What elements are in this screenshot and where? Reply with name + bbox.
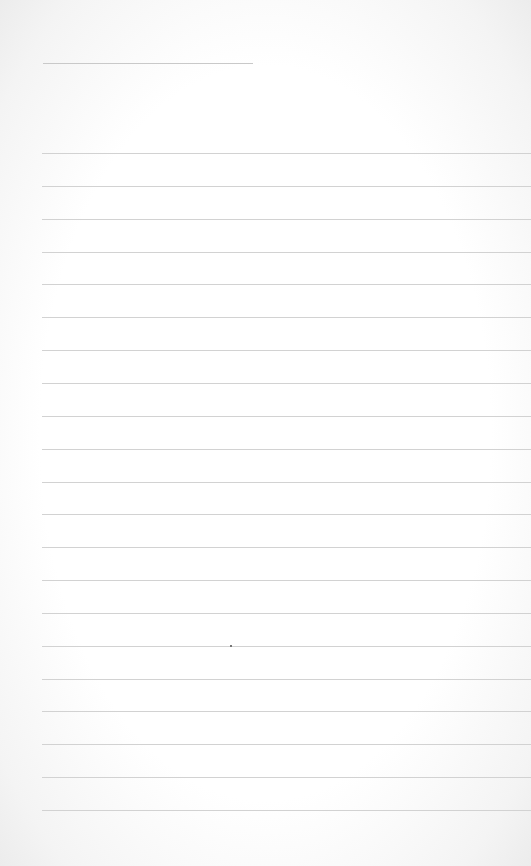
ruled-line — [42, 711, 531, 712]
ruled-line — [42, 153, 531, 154]
ruled-line — [42, 252, 531, 253]
ruled-line — [42, 350, 531, 351]
ruled-line — [42, 613, 531, 614]
ruled-line — [42, 449, 531, 450]
ruled-line — [42, 514, 531, 515]
ruled-line — [42, 482, 531, 483]
ruled-line — [42, 416, 531, 417]
ruled-line — [42, 777, 531, 778]
ruled-line — [42, 219, 531, 220]
lined-paper-page — [0, 0, 531, 866]
ruled-line — [42, 679, 531, 680]
ruled-line — [42, 744, 531, 745]
ruled-line — [42, 383, 531, 384]
header-title-line — [43, 63, 253, 64]
ink-dot — [230, 645, 232, 647]
ruled-line — [42, 317, 531, 318]
ruled-line — [42, 810, 531, 811]
ruled-line — [42, 186, 531, 187]
ruled-line — [42, 284, 531, 285]
ruled-line — [42, 547, 531, 548]
ruled-line — [42, 580, 531, 581]
ruled-line — [42, 646, 531, 647]
